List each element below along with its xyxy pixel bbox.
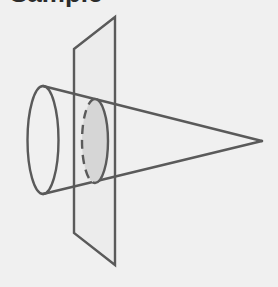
cone-plane-section-diagram — [0, 0, 278, 287]
cone-base-ellipse — [28, 86, 59, 194]
diagram-canvas: Sample — [0, 0, 278, 287]
